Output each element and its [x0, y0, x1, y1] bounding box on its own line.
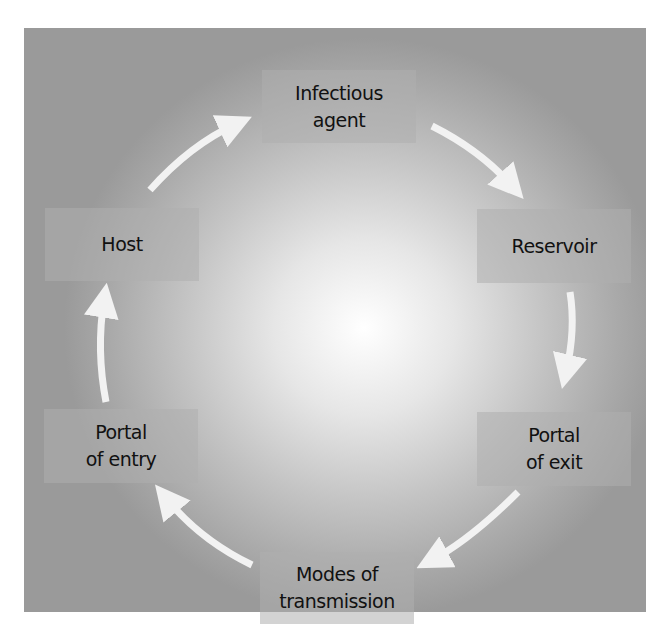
arrow-exit-to-transmission-icon [432, 492, 518, 560]
node-label-line: Modes of [279, 561, 394, 588]
node-portal-of-entry: Portalof entry [44, 409, 198, 483]
node-label-line: Infectious [295, 80, 383, 107]
node-label-line: agent [295, 107, 383, 134]
node-label-line: transmission [279, 588, 394, 615]
node-label-line: Portal [526, 422, 582, 449]
node-reservoir: Reservoir [477, 209, 631, 283]
arrow-host-to-agent-icon [150, 124, 236, 190]
arrow-transmission-to-entry-icon [166, 498, 252, 565]
node-infectious-agent: Infectiousagent [262, 70, 416, 143]
node-modes-of-transmission: Modes oftransmission [260, 552, 414, 624]
arrow-entry-to-host-icon [100, 300, 106, 402]
node-label-line: Reservoir [512, 233, 597, 260]
node-portal-of-exit: Portalof exit [477, 412, 631, 486]
node-label-line: of entry [86, 446, 157, 473]
arrow-reservoir-to-exit-icon [566, 292, 572, 372]
node-label-line: Portal [86, 419, 157, 446]
node-label-line: Host [101, 231, 142, 258]
node-host: Host [45, 208, 199, 281]
arrow-agent-to-reservoir-icon [432, 126, 512, 186]
node-label-line: of exit [526, 449, 582, 476]
